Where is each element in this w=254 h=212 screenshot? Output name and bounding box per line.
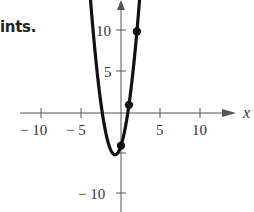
x-tick-label: 5: [156, 122, 164, 138]
plotted-points: [117, 27, 141, 150]
y-tick-label: − 10: [78, 186, 105, 202]
data-point: [117, 141, 125, 149]
y-tick-label: 10: [96, 23, 111, 39]
parabola-chart: − 10 − 5 5 10 x 10 5 − 10: [0, 0, 254, 212]
x-axis-label: x: [242, 104, 250, 121]
data-point: [125, 101, 133, 109]
x-tick-label: − 5: [66, 122, 86, 138]
data-point: [133, 27, 141, 35]
x-tick-label: − 10: [20, 122, 47, 138]
y-tick-label: 5: [104, 64, 112, 80]
x-axis-arrow-icon: [222, 109, 236, 117]
y-axis-arrow-icon: [117, 0, 125, 10]
x-tick-label: 10: [192, 122, 207, 138]
x-axis: − 10 − 5 5 10 x: [20, 104, 250, 138]
